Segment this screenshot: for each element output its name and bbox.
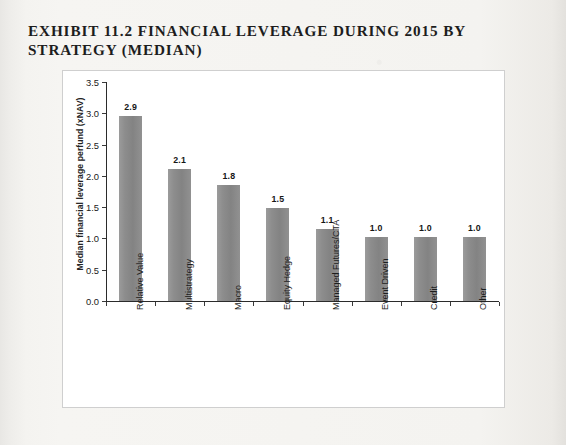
bar-value-label: 1.0 xyxy=(454,223,494,233)
y-axis-tick-label: 1.0 xyxy=(73,233,99,244)
bar-value-label: 2.1 xyxy=(160,155,200,165)
y-axis-tick-mark xyxy=(102,238,106,239)
y-axis-tick-label: 2.5 xyxy=(73,139,99,150)
x-axis-category-label: Credit xyxy=(429,286,439,310)
y-axis-line xyxy=(106,82,107,302)
x-axis-tick-mark xyxy=(352,302,353,306)
y-axis-tick-mark xyxy=(102,113,106,114)
bar-value-label: 1.0 xyxy=(405,223,445,233)
x-axis-category-label: Managed Futures/CTA xyxy=(331,220,341,310)
x-axis-tick-mark xyxy=(155,302,156,306)
x-axis-tick-mark xyxy=(499,302,500,306)
y-axis-tick-labels: 0.00.51.01.52.02.53.03.5 xyxy=(71,71,99,407)
bar-value-label: 1.0 xyxy=(356,223,396,233)
x-axis-tick-mark xyxy=(450,302,451,306)
x-axis-category-label: Relative Value xyxy=(135,253,145,310)
y-axis-tick-mark xyxy=(102,270,106,271)
y-axis-tick-mark xyxy=(102,301,106,302)
x-axis-category-label: Macro xyxy=(233,285,243,310)
bar-value-label: 1.1 xyxy=(307,215,347,225)
x-axis-tick-mark xyxy=(253,302,254,306)
bar-value-label: 2.9 xyxy=(111,102,151,112)
y-axis-tick-mark xyxy=(102,176,106,177)
exhibit-title-line-1: EXHIBIT 11.2 FINANCIAL LEVERAGE DURING 2… xyxy=(28,23,466,40)
bar xyxy=(217,185,240,301)
y-axis-tick-label: 0.5 xyxy=(73,264,99,275)
y-axis-tick-mark xyxy=(102,145,106,146)
bar-value-label: 1.8 xyxy=(209,171,249,181)
y-axis-tick-mark xyxy=(102,207,106,208)
x-axis-category-label: Equity Hedge xyxy=(282,256,292,310)
y-axis-tick-mark xyxy=(102,82,106,83)
exhibit-title-line-2: STRATEGY (MEDIAN) xyxy=(28,42,202,59)
x-axis-category-label: Event Driven xyxy=(380,258,390,310)
x-axis-category-label: Other xyxy=(478,287,488,310)
bar-value-label: 1.5 xyxy=(258,194,298,204)
y-axis-tick-label: 3.0 xyxy=(73,108,99,119)
scanned-page: EXHIBIT 11.2 FINANCIAL LEVERAGE DURING 2… xyxy=(0,0,566,445)
chart-frame: Median financial leverage perfund (xNAV)… xyxy=(62,70,505,408)
x-axis-tick-mark xyxy=(106,302,107,306)
x-axis-tick-mark xyxy=(303,302,304,306)
y-axis-tick-label: 0.0 xyxy=(73,296,99,307)
x-axis-category-label: Multistrategy xyxy=(184,259,194,310)
y-axis-tick-label: 3.5 xyxy=(73,77,99,88)
x-axis-tick-mark xyxy=(401,302,402,306)
bar-chart-plot: Median financial leverage perfund (xNAV)… xyxy=(63,71,504,407)
exhibit-title: EXHIBIT 11.2 FINANCIAL LEVERAGE DURING 2… xyxy=(28,22,488,60)
x-axis-tick-mark xyxy=(204,302,205,306)
y-axis-tick-label: 2.0 xyxy=(73,170,99,181)
y-axis-tick-label: 1.5 xyxy=(73,202,99,213)
